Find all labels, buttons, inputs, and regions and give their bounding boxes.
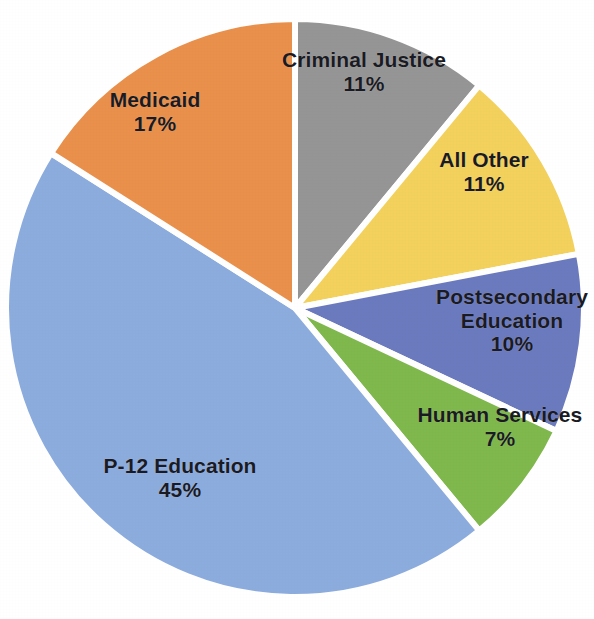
slice-label-all-other: All Other 11%: [439, 148, 529, 195]
slice-label-value-p-12-education: 45%: [103, 478, 256, 502]
slice-label-name-postsecondary-line1: Postsecondary: [436, 285, 588, 309]
slice-label-medicaid: Medicaid 17%: [110, 88, 201, 135]
slice-label-name-p-12-education: P-12 Education: [103, 454, 256, 478]
slice-label-name-criminal-justice: Criminal Justice: [282, 48, 446, 72]
slice-label-value-all-other: 11%: [439, 172, 529, 196]
slice-label-value-human-services: 7%: [418, 427, 583, 451]
slice-label-value-medicaid: 17%: [110, 112, 201, 136]
slice-label-name-medicaid: Medicaid: [110, 88, 201, 112]
pie-chart: Criminal Justice 11% All Other 11% Posts…: [0, 0, 594, 619]
slice-label-name-postsecondary-line2: Education: [436, 308, 588, 332]
slice-label-criminal-justice: Criminal Justice 11%: [282, 48, 446, 95]
slice-label-human-services: Human Services 7%: [418, 403, 583, 450]
slice-label-p-12-education: P-12 Education 45%: [103, 454, 256, 501]
slice-label-postsecondary-education: Postsecondary Education 10%: [436, 285, 588, 356]
slice-label-name-human-services: Human Services: [418, 403, 583, 427]
slice-label-name-all-other: All Other: [439, 148, 529, 172]
slice-label-value-postsecondary-education: 10%: [436, 332, 588, 356]
slice-label-value-criminal-justice: 11%: [282, 72, 446, 96]
